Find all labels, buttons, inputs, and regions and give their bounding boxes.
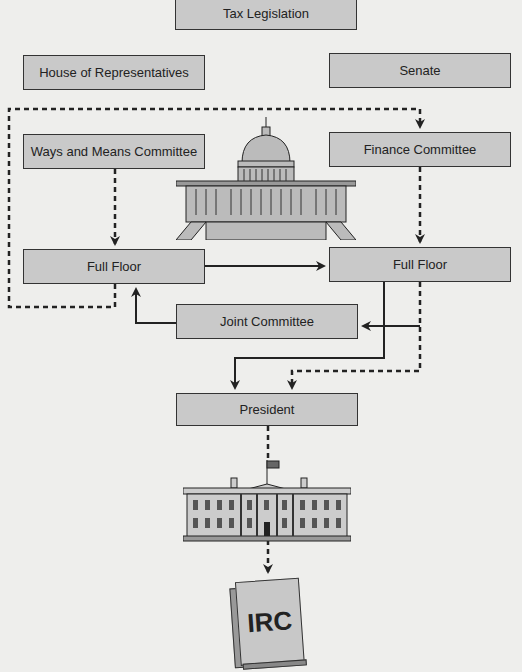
capitol-building-icon: [176, 115, 356, 240]
senate-floor-to-president-dashed: [292, 282, 420, 388]
irc-book-icon: IRC: [229, 578, 305, 672]
connectors: [0, 0, 522, 672]
joint-to-house-floor: [136, 289, 176, 323]
white-house-icon: [183, 460, 351, 542]
irc-label: IRC: [246, 605, 293, 639]
